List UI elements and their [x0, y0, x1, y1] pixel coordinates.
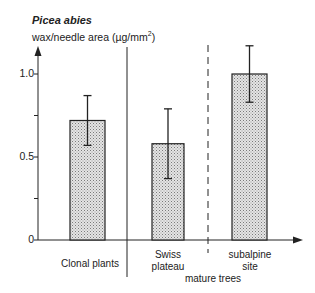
y-axis-arrow-icon [35, 46, 42, 56]
x-category-label-swiss-line2: plateau [138, 261, 198, 273]
y-tick-label-05: 0.5 [10, 150, 34, 162]
x-category-label-subalpine-line1: subalpine [218, 249, 282, 261]
y-tick-label-0: 0 [10, 233, 34, 245]
x-axis-arrow-icon [293, 237, 303, 244]
x-category-label-swiss-line1: Swiss [138, 249, 198, 261]
x-category-label-clonal: Clonal plants [45, 258, 135, 270]
group-label-mature-trees: mature trees [168, 273, 258, 285]
x-category-label-subalpine-line2: site [218, 261, 282, 273]
y-tick-label-1: 1.0 [10, 67, 34, 79]
x-category-label-swiss: Swiss plateau [138, 249, 198, 273]
plot-area [34, 45, 303, 277]
x-category-label-subalpine: subalpine site [218, 249, 282, 273]
